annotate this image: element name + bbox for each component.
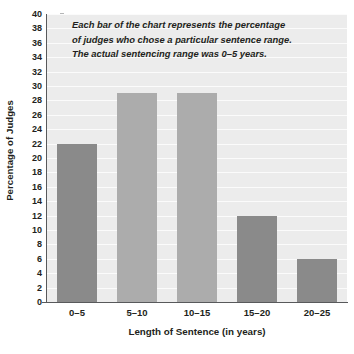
- x-axis-tick-label: 20–25: [304, 307, 330, 318]
- y-axis-tick-label: 34: [18, 53, 42, 62]
- y-axis-tick-label: 24: [18, 125, 42, 134]
- y-axis-tick-label: 18: [18, 168, 42, 177]
- y-axis-tick-label: 14: [18, 197, 42, 206]
- y-axis-tick-label: 26: [18, 110, 42, 119]
- y-axis-tick-label: 32: [18, 67, 42, 76]
- y-axis-tick-label: 10: [18, 226, 42, 235]
- x-axis-title: Length of Sentence (in years): [47, 326, 347, 337]
- y-axis-tick-label: 40: [18, 10, 42, 19]
- chart-note-line: The actual sentencing range was 0–5 year…: [72, 47, 334, 62]
- y-axis-tick-label: 6: [18, 254, 42, 263]
- y-axis-tick-label: 16: [18, 182, 42, 191]
- chart-note-line: of judges who chose a particular sentenc…: [72, 33, 334, 48]
- y-axis-tick-label: 12: [18, 211, 42, 220]
- x-axis-line: [42, 302, 348, 303]
- y-axis-tick-label: 36: [18, 38, 42, 47]
- y-axis-tick-label: 28: [18, 96, 42, 105]
- x-axis-tick-label: 15–20: [244, 307, 270, 318]
- y-axis-title: Percentage of Judges: [0, 0, 18, 300]
- bar: [237, 216, 277, 302]
- y-axis-tick-label: 20: [18, 154, 42, 163]
- y-axis-tick-label: 4: [18, 269, 42, 278]
- y-axis-title-label: Percentage of Judges: [4, 100, 15, 201]
- bar: [117, 93, 157, 302]
- y-axis-tick-label: 38: [18, 24, 42, 33]
- y-axis-tick-label: 30: [18, 82, 42, 91]
- y-axis-tick-labels: 0246810121416182022242628303234363840: [18, 14, 42, 302]
- x-axis-tick-label: 5–10: [126, 307, 147, 318]
- bar: [297, 259, 337, 302]
- x-axis-tick-label: 10–15: [184, 307, 210, 318]
- bar: [57, 144, 97, 302]
- x-axis-tick-label: 0–5: [69, 307, 85, 318]
- bar-chart-figure: Percentage of Judges 0246810121416182022…: [0, 0, 354, 354]
- y-axis-tick-label: 2: [18, 283, 42, 292]
- chart-note-line: Each bar of the chart represents the per…: [72, 18, 334, 33]
- chart-note: Each bar of the chart represents the per…: [72, 18, 334, 62]
- y-axis-tick-label: 8: [18, 240, 42, 249]
- x-axis-tick-labels: 0–55–1010–1515–2020–25: [47, 307, 347, 323]
- bar: [177, 93, 217, 302]
- y-axis-tick-label: 22: [18, 139, 42, 148]
- y-axis-tick-label: 0: [18, 298, 42, 307]
